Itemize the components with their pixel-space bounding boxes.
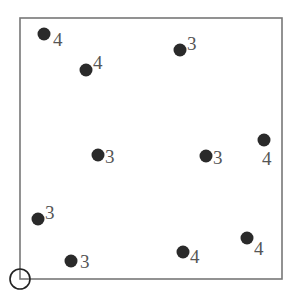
point-label: 4	[262, 148, 272, 169]
point-label: 4	[53, 29, 63, 50]
point-dot	[65, 255, 78, 268]
point-dot	[38, 28, 51, 41]
dot-diagram: 4433343344	[0, 0, 298, 301]
point-dot	[32, 213, 45, 226]
point-label: 4	[93, 52, 103, 73]
point-dot	[241, 232, 254, 245]
point-dot	[177, 246, 190, 259]
point-label: 3	[105, 146, 115, 167]
point-label: 4	[190, 246, 200, 267]
point-label: 3	[187, 33, 197, 54]
point-label: 3	[213, 147, 223, 168]
point-dot	[174, 44, 187, 57]
point-label: 4	[254, 238, 264, 259]
points-group: 4433343344	[32, 28, 273, 273]
point-label: 3	[45, 202, 55, 223]
point-label: 3	[80, 251, 90, 272]
point-dot	[258, 134, 271, 147]
point-dot	[92, 149, 105, 162]
point-dot	[80, 64, 93, 77]
point-dot	[200, 150, 213, 163]
